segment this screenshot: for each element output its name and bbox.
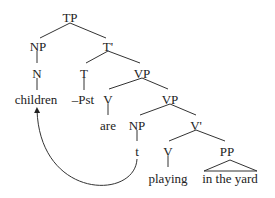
node-v-bar: V' (190, 118, 202, 133)
node-t-bar: T' (103, 39, 113, 54)
node-tp: TP (62, 10, 77, 25)
node-np-subject: NP (30, 39, 47, 54)
syntax-tree-diagram: TP NP T' N T VP children –Pst V VP are N… (0, 0, 275, 198)
word-playing: playing (149, 171, 188, 186)
node-np-trace: NP (129, 118, 146, 133)
node-v-lower: V (163, 144, 173, 159)
movement-arrow (37, 110, 137, 185)
word-are: are (100, 118, 116, 133)
word-pst: –Pst (71, 92, 95, 107)
node-pp: PP (220, 144, 234, 159)
node-t: T (80, 66, 88, 81)
node-vp-lower: VP (162, 92, 179, 107)
word-trace: t (135, 144, 139, 159)
node-n: N (32, 66, 42, 81)
node-v-upper: V (103, 92, 113, 107)
word-children: children (15, 92, 58, 107)
word-in-the-yard: in the yard (202, 171, 258, 186)
pp-triangle (204, 160, 257, 171)
node-vp-upper: VP (134, 66, 151, 81)
